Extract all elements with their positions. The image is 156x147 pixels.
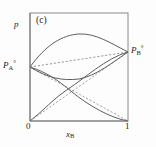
- x-tick-label-1: 1: [125, 122, 130, 131]
- pb-label: PB°: [131, 45, 144, 56]
- pa-superscript: °: [13, 59, 16, 67]
- plot-canvas: [0, 0, 156, 147]
- vapour-pressure-figure: (c) p xB 0 1 PA° PB°: [0, 0, 156, 147]
- plot-frame: [30, 13, 128, 121]
- x-axis-label-subscript: B: [70, 132, 74, 139]
- x-tick-label-0: 0: [26, 122, 31, 131]
- x-axis-label: xB: [66, 130, 74, 140]
- y-axis-label: p: [14, 20, 19, 29]
- y-axis-label-symbol: p: [14, 19, 19, 29]
- pb-superscript: °: [141, 44, 144, 52]
- panel-label: (c): [36, 16, 47, 26]
- pa-label: PA°: [3, 60, 16, 71]
